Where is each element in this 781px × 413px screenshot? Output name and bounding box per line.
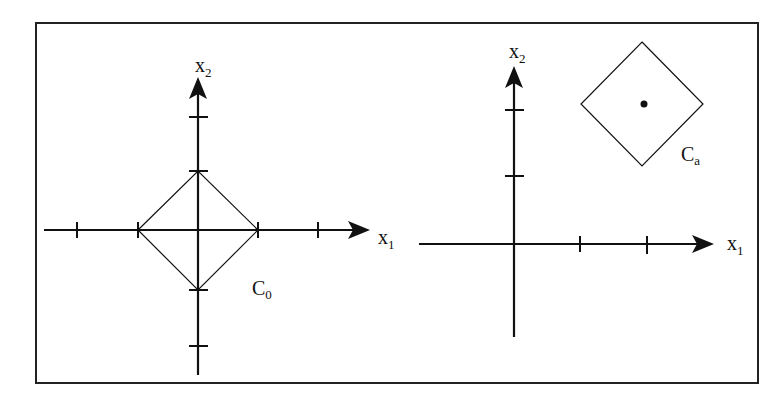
right-x1-label: x1 [727,232,744,258]
right-panel: x2 x1 Ca [419,40,744,337]
left-shape-label-c0: C0 [252,277,272,302]
right-shape-label-ca: Ca [681,143,700,168]
left-x1-label: x1 [378,226,395,252]
right-x2-label: x2 [509,40,526,66]
left-x2-label: x2 [195,54,212,80]
figure-canvas: x2 x1 C0 x2 x1 Ca [0,0,781,413]
left-panel: x2 x1 C0 [44,54,395,375]
center-point-a [641,101,648,108]
figure-frame [36,23,758,383]
